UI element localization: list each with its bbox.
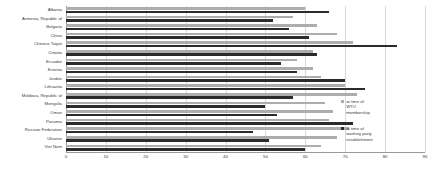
legend-swatch-wto-membership	[341, 100, 344, 103]
bar-chart: AlbaniaArmenia, Republic ofBulgariaChina…	[0, 0, 435, 174]
bar-wto-membership	[66, 41, 353, 44]
x-tick-label-70: 70	[343, 154, 348, 159]
bar-row	[66, 118, 425, 127]
bar-wto-membership	[66, 16, 293, 19]
category-label: Estonia	[48, 66, 62, 75]
bar-working-party	[66, 62, 281, 65]
bar-working-party	[66, 148, 305, 151]
bar-wto-membership	[66, 76, 321, 79]
x-tick-label-10: 10	[103, 154, 108, 159]
bar-working-party	[66, 88, 365, 91]
bar-working-party	[66, 36, 309, 39]
category-label: Chinese Taipei	[34, 40, 62, 49]
x-tick-label-0: 0	[65, 154, 67, 159]
category-label: Croatia	[48, 49, 62, 58]
bar-wto-membership	[66, 119, 329, 122]
bar-row	[66, 100, 425, 109]
category-label: Mongolia	[45, 100, 62, 109]
bar-working-party	[66, 139, 269, 142]
gridline-90	[425, 6, 426, 152]
x-axis-line	[66, 152, 425, 153]
category-label: Oman	[50, 109, 62, 118]
legend-label-working-party: at time of working party establishment	[346, 126, 373, 142]
bar-wto-membership	[66, 93, 357, 96]
bar-working-party	[66, 19, 273, 22]
category-label: Ukraine	[47, 135, 62, 144]
legend-item-wto-membership: at time of WTO membership	[341, 99, 370, 115]
bar-working-party	[66, 96, 293, 99]
bar-working-party	[66, 11, 329, 14]
bar-working-party	[66, 28, 289, 31]
bar-wto-membership	[66, 136, 337, 139]
bar-wto-membership	[66, 145, 321, 148]
bar-row	[66, 66, 425, 75]
bar-wto-membership	[66, 110, 333, 113]
bar-row	[66, 109, 425, 118]
x-axis-tick-labels: 0102030405060708090	[66, 154, 425, 166]
bar-row	[66, 92, 425, 101]
legend-label-wto-membership: at time of WTO membership	[346, 99, 370, 115]
bar-wto-membership	[66, 102, 325, 105]
category-label: Bulgaria	[46, 23, 62, 32]
bar-row	[66, 23, 425, 32]
bar-working-party	[66, 79, 345, 82]
x-tick-label-30: 30	[183, 154, 188, 159]
x-tick-label-20: 20	[143, 154, 148, 159]
bar-row	[66, 40, 425, 49]
bar-wto-membership	[66, 127, 349, 130]
x-tick-label-90: 90	[423, 154, 428, 159]
bar-wto-membership	[66, 67, 313, 70]
y-axis-category-labels: AlbaniaArmenia, Republic ofBulgariaChina…	[0, 6, 64, 152]
category-label: China	[51, 32, 62, 41]
bar-working-party	[66, 53, 317, 56]
bar-wto-membership	[66, 84, 345, 87]
bar-row	[66, 83, 425, 92]
category-label: Moldova, Republic of	[22, 92, 62, 101]
bar-row	[66, 58, 425, 67]
legend-item-working-party: at time of working party establishment	[341, 126, 373, 142]
bar-wto-membership	[66, 7, 305, 10]
x-tick-label-50: 50	[263, 154, 268, 159]
bar-wto-membership	[66, 33, 337, 36]
bar-row	[66, 49, 425, 58]
bar-working-party	[66, 71, 297, 74]
category-label: Lithuania	[45, 83, 62, 92]
category-label: Panama	[46, 118, 62, 127]
bar-row	[66, 6, 425, 15]
x-tick-label-60: 60	[303, 154, 308, 159]
bar-row	[66, 143, 425, 152]
category-label: Ecuador	[46, 58, 62, 67]
bar-row	[66, 32, 425, 41]
category-label: Armenia, Republic of	[22, 15, 62, 24]
bar-working-party	[66, 45, 397, 48]
bar-working-party	[66, 122, 353, 125]
bar-wto-membership	[66, 59, 297, 62]
bar-working-party	[66, 105, 265, 108]
bar-wto-membership	[66, 50, 313, 53]
legend-swatch-working-party	[341, 127, 344, 130]
bar-wto-membership	[66, 24, 317, 27]
bar-row	[66, 15, 425, 24]
category-label: Russian Federation	[25, 126, 62, 135]
bar-working-party	[66, 114, 277, 117]
bar-row	[66, 75, 425, 84]
bar-working-party	[66, 131, 253, 134]
x-tick-label-40: 40	[223, 154, 228, 159]
category-label: Viet Nam	[44, 143, 62, 152]
category-label: Jordan	[49, 75, 62, 84]
category-label: Albania	[48, 6, 62, 15]
x-tick-label-80: 80	[383, 154, 388, 159]
